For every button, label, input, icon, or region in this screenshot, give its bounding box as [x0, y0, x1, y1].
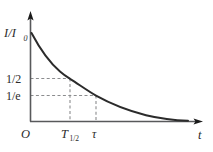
decay-chart-figure: I/I 0 1/2 1/e O T 1/2 τ t	[0, 0, 213, 152]
y-tick-label-half: 1/2	[6, 72, 21, 86]
x-tick-label-half-life: T	[61, 127, 69, 141]
x-origin-label: O	[21, 127, 30, 141]
y-axis-label-subscript: 0	[24, 34, 28, 43]
y-axis-label: I/I	[3, 26, 17, 40]
x-tick-label-tau: τ	[92, 127, 97, 141]
x-axis-label: t	[198, 128, 202, 142]
chart-background	[0, 0, 213, 152]
chart-canvas: I/I 0 1/2 1/e O T 1/2 τ t	[0, 0, 213, 152]
y-tick-label-inverse-e: 1/e	[6, 89, 21, 103]
x-tick-label-half-life-subscript: 1/2	[70, 134, 80, 143]
